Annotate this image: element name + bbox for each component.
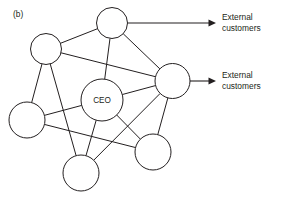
- outflow-label-top-line-2: customers: [222, 23, 261, 34]
- arrow-external-customers-right: [190, 78, 216, 85]
- edge-upper-left-to-bottom: [50, 64, 76, 156]
- arrow-external-customers-top-head-icon: [209, 20, 217, 27]
- node-right: [155, 64, 190, 99]
- outflow-label-top: External customers: [222, 12, 261, 33]
- edge-upper-left-to-left-lower: [32, 64, 42, 103]
- edge-left-lower-to-bottom-right: [44, 124, 135, 147]
- edge-upper-left-to-top: [60, 29, 97, 44]
- node-ceo-label: CEO: [93, 96, 111, 105]
- edge-upper-left-to-right: [61, 53, 156, 77]
- edge-right-to-bottom-right: [158, 98, 168, 135]
- edge-ceo-to-bottom: [86, 120, 96, 156]
- node-upper-left: [31, 34, 62, 65]
- edge-ceo-to-left-lower: [44, 105, 81, 115]
- node-bottom: [63, 155, 99, 191]
- edge-top-to-right: [123, 34, 160, 69]
- edge-ceo-to-bottom-right: [117, 115, 141, 139]
- edge-right-to-ceo: [122, 86, 155, 95]
- nodes-layer: CEO: [9, 8, 190, 192]
- node-top: [97, 8, 128, 39]
- outflow-label-right-line-2: customers: [222, 81, 261, 92]
- outflow-label-top-line-1: External: [222, 12, 261, 23]
- arrow-external-customers-top: [128, 20, 216, 27]
- figure-root: (b) CEO External customers External cust…: [0, 0, 287, 198]
- node-bottom-right: [135, 134, 171, 170]
- outflow-label-right: External customers: [222, 70, 261, 91]
- node-left-lower: [9, 102, 45, 138]
- arrow-external-customers-right-head-icon: [209, 78, 217, 85]
- edge-top-to-ceo: [105, 38, 110, 79]
- outflow-label-right-line-1: External: [222, 70, 261, 81]
